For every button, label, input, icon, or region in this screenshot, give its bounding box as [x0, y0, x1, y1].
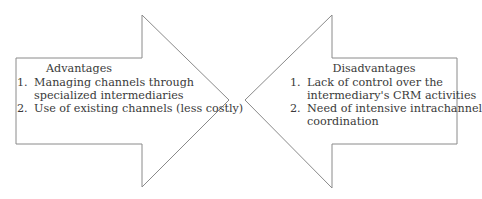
item-number: 1. — [290, 76, 307, 102]
item-number: 2. — [290, 102, 307, 128]
item-text-line: coordination — [307, 115, 482, 128]
item-text-line: Lack of control over the — [307, 76, 476, 89]
advantages-panel: Advantages 1. Managing channels through … — [17, 62, 227, 115]
item-text-line: Need of intensive intrachannel — [307, 102, 482, 115]
disadvantage-item: 2. Need of intensive intrachannel coordi… — [290, 102, 460, 128]
item-number: 2. — [17, 102, 34, 115]
item-number: 1. — [17, 76, 34, 102]
advantages-title: Advantages — [17, 62, 141, 75]
item-text-line: intermediary's CRM activities — [307, 89, 476, 102]
item-text-line: Managing channels through — [34, 76, 227, 89]
disadvantages-title: Disadvantages — [290, 62, 458, 75]
item-text-line: specialized intermediaries — [34, 89, 227, 102]
disadvantages-panel: Disadvantages 1. Lack of control over th… — [290, 62, 460, 128]
advantage-item: 1. Managing channels through specialized… — [17, 76, 227, 102]
disadvantages-list: 1. Lack of control over the intermediary… — [290, 76, 460, 128]
disadvantage-item: 1. Lack of control over the intermediary… — [290, 76, 460, 102]
item-text-line: Use of existing channels (less costly) — [34, 102, 243, 115]
advantage-item: 2. Use of existing channels (less costly… — [17, 102, 227, 115]
advantages-list: 1. Managing channels through specialized… — [17, 76, 227, 115]
